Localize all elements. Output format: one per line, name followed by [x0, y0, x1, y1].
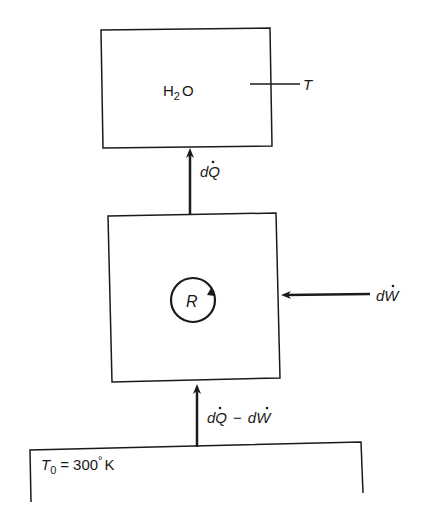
dw-dot — [392, 285, 395, 288]
temperature-label: T — [303, 76, 314, 93]
thermodynamics-diagram: H2O T dQ R dW dQ−dW T0=300°K — [0, 0, 423, 522]
dw-label: dW — [376, 287, 400, 304]
dw-dot-2 — [266, 407, 269, 410]
dq-dot — [212, 161, 215, 164]
dq-dot-2 — [219, 407, 222, 410]
h2o-label: H2O — [163, 82, 194, 102]
ambient-temperature-label: T0=300°K — [41, 454, 115, 476]
dq-minus-dw-label: dQ−dW — [207, 409, 272, 426]
engine-label: R — [186, 293, 198, 310]
work-input-arrow — [286, 294, 370, 295]
dq-label: dQ — [200, 163, 220, 180]
